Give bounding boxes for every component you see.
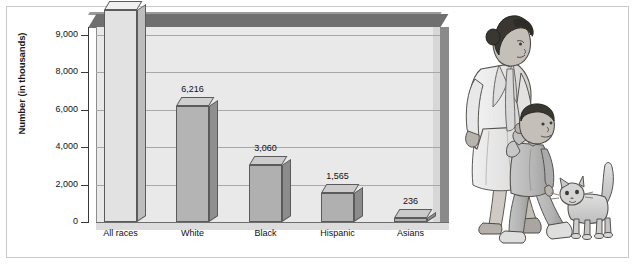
bar[interactable]	[321, 184, 354, 222]
woman-child-cat-illustration	[455, 7, 630, 257]
y-axis-tick	[81, 222, 88, 223]
bar-value-label: 6,216	[164, 84, 221, 94]
bar-top-face	[394, 209, 432, 218]
bar-top-face	[321, 184, 359, 193]
bar-front-face	[321, 193, 354, 222]
bar-front-face	[249, 165, 282, 222]
bar[interactable]	[394, 209, 427, 222]
y-axis-tick-label: 2,000	[55, 179, 78, 189]
y-axis-tick-label: 6,000	[55, 104, 78, 114]
category-label: Black	[231, 228, 300, 238]
bar-side-face	[209, 100, 218, 222]
gridline	[96, 35, 440, 36]
bar-front-face	[104, 10, 137, 222]
bar-top-face	[249, 156, 287, 165]
y-axis-tick	[81, 147, 88, 148]
plot-right-wall	[440, 27, 449, 222]
bar-value-label: 3,060	[237, 143, 294, 153]
y-axis-tick	[81, 35, 88, 36]
category-label: All races	[86, 228, 155, 238]
y-axis-tick-label: 4,000	[55, 141, 78, 151]
bar[interactable]	[176, 97, 209, 222]
y-axis-tick-label: 8,000	[55, 66, 78, 76]
bar-value-label: 1,565	[309, 171, 366, 181]
bar-front-face	[394, 218, 427, 222]
bar[interactable]	[104, 1, 137, 222]
plot-right-wall-inner	[433, 27, 440, 222]
bar-top-face	[176, 97, 214, 106]
bar-side-face	[137, 3, 146, 222]
y-axis-title: Number (in thousands)	[16, 19, 27, 149]
bar[interactable]	[249, 156, 282, 222]
bar-chart: Number (in thousands) 02,0004,0006,0008,…	[0, 0, 455, 266]
bar-side-face	[282, 159, 291, 222]
figure-container: Number (in thousands) 02,0004,0006,0008,…	[0, 0, 637, 266]
y-axis-tick-label: 9,000	[55, 29, 78, 39]
y-axis-tick-label: 0	[73, 216, 78, 226]
bar-value-label: 236	[382, 196, 439, 206]
gridline	[96, 110, 440, 111]
gridline	[96, 72, 440, 73]
bar-side-face	[354, 187, 363, 222]
category-label: Asians	[376, 228, 445, 238]
bar-front-face	[176, 106, 209, 222]
y-axis-tick	[81, 110, 88, 111]
y-axis-tick	[81, 185, 88, 186]
category-label: White	[158, 228, 227, 238]
y-axis-line	[88, 27, 89, 223]
category-label: Hispanic	[303, 228, 372, 238]
y-axis-tick	[81, 72, 88, 73]
plot-baseline	[96, 222, 449, 223]
bar-top-face	[104, 1, 142, 10]
